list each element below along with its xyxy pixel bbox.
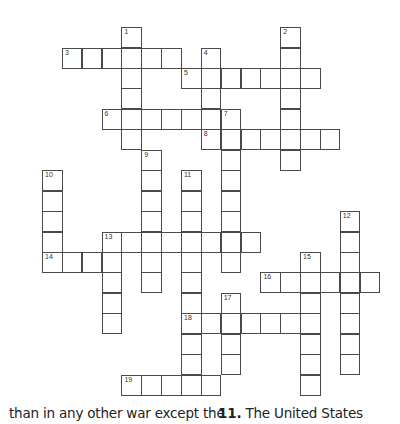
crossword-cell[interactable]: [300, 354, 321, 375]
crossword-cell[interactable]: [181, 191, 202, 212]
crossword-cell[interactable]: [340, 272, 361, 293]
crossword-cell[interactable]: [181, 334, 202, 355]
crossword-cell[interactable]: [121, 129, 142, 150]
crossword-cell[interactable]: [141, 232, 162, 253]
crossword-cell[interactable]: 12: [340, 211, 361, 232]
crossword-cell[interactable]: [141, 252, 162, 273]
crossword-cell[interactable]: [300, 313, 321, 334]
crossword-cell[interactable]: [221, 129, 242, 150]
crossword-cell[interactable]: 5: [181, 68, 202, 89]
crossword-cell[interactable]: [221, 191, 242, 212]
crossword-cell[interactable]: [141, 211, 162, 232]
crossword-cell[interactable]: [280, 109, 301, 130]
crossword-cell[interactable]: [42, 211, 63, 232]
crossword-cell[interactable]: [280, 272, 301, 293]
crossword-cell[interactable]: [201, 109, 222, 130]
crossword-cell[interactable]: [300, 375, 321, 396]
crossword-cell[interactable]: [241, 68, 262, 89]
crossword-cell[interactable]: 18: [181, 313, 202, 334]
crossword-cell[interactable]: 6: [102, 109, 123, 130]
crossword-cell[interactable]: [141, 375, 162, 396]
crossword-cell[interactable]: [201, 232, 222, 253]
crossword-cell[interactable]: [300, 129, 321, 150]
crossword-cell[interactable]: [260, 68, 281, 89]
crossword-cell[interactable]: [121, 48, 142, 69]
crossword-cell[interactable]: [360, 272, 381, 293]
crossword-cell[interactable]: [181, 252, 202, 273]
crossword-cell[interactable]: 8: [201, 129, 222, 150]
crossword-cell[interactable]: 14: [42, 252, 63, 273]
crossword-cell[interactable]: [300, 334, 321, 355]
crossword-cell[interactable]: [221, 252, 242, 273]
crossword-cell[interactable]: [141, 272, 162, 293]
crossword-cell[interactable]: [320, 129, 341, 150]
crossword-cell[interactable]: [221, 211, 242, 232]
crossword-cell[interactable]: [82, 252, 103, 273]
crossword-cell[interactable]: [260, 313, 281, 334]
crossword-cell[interactable]: 10: [42, 170, 63, 191]
crossword-cell[interactable]: 17: [221, 293, 242, 314]
crossword-cell[interactable]: [141, 109, 162, 130]
crossword-cell[interactable]: [260, 129, 281, 150]
crossword-cell[interactable]: 1: [121, 27, 142, 48]
crossword-cell[interactable]: [201, 88, 222, 109]
crossword-cell[interactable]: [221, 313, 242, 334]
crossword-cell[interactable]: [340, 293, 361, 314]
crossword-cell[interactable]: [42, 232, 63, 253]
crossword-cell[interactable]: [82, 48, 103, 69]
crossword-cell[interactable]: [280, 88, 301, 109]
crossword-cell[interactable]: [102, 252, 123, 273]
crossword-cell[interactable]: 9: [141, 150, 162, 171]
crossword-cell[interactable]: [221, 150, 242, 171]
crossword-cell[interactable]: 4: [201, 48, 222, 69]
crossword-cell[interactable]: 2: [280, 27, 301, 48]
crossword-cell[interactable]: [181, 293, 202, 314]
crossword-cell[interactable]: [121, 232, 142, 253]
crossword-cell[interactable]: [102, 293, 123, 314]
crossword-cell[interactable]: [141, 170, 162, 191]
crossword-cell[interactable]: [340, 354, 361, 375]
crossword-cell[interactable]: [181, 272, 202, 293]
crossword-cell[interactable]: [320, 272, 341, 293]
crossword-cell[interactable]: [181, 232, 202, 253]
crossword-cell[interactable]: [181, 375, 202, 396]
crossword-cell[interactable]: [141, 191, 162, 212]
crossword-cell[interactable]: [121, 109, 142, 130]
crossword-cell[interactable]: [280, 48, 301, 69]
crossword-cell[interactable]: [181, 211, 202, 232]
crossword-cell[interactable]: [181, 354, 202, 375]
crossword-cell[interactable]: [201, 68, 222, 89]
crossword-cell[interactable]: 7: [221, 109, 242, 130]
crossword-cell[interactable]: [121, 68, 142, 89]
crossword-cell[interactable]: [300, 68, 321, 89]
crossword-cell[interactable]: [62, 252, 83, 273]
crossword-cell[interactable]: [280, 313, 301, 334]
crossword-cell[interactable]: [241, 129, 262, 150]
crossword-cell[interactable]: [340, 252, 361, 273]
crossword-cell[interactable]: [340, 313, 361, 334]
crossword-cell[interactable]: [161, 48, 182, 69]
crossword-cell[interactable]: [280, 150, 301, 171]
crossword-cell[interactable]: [201, 375, 222, 396]
crossword-cell[interactable]: 15: [300, 252, 321, 273]
crossword-cell[interactable]: [221, 170, 242, 191]
crossword-cell[interactable]: [221, 68, 242, 89]
crossword-cell[interactable]: [280, 129, 301, 150]
crossword-cell[interactable]: [121, 88, 142, 109]
crossword-cell[interactable]: [161, 232, 182, 253]
crossword-cell[interactable]: 3: [62, 48, 83, 69]
crossword-cell[interactable]: 16: [260, 272, 281, 293]
crossword-cell[interactable]: [280, 68, 301, 89]
crossword-cell[interactable]: [42, 191, 63, 212]
crossword-cell[interactable]: [201, 313, 222, 334]
crossword-cell[interactable]: [221, 232, 242, 253]
crossword-cell[interactable]: [181, 109, 202, 130]
crossword-cell[interactable]: 13: [102, 232, 123, 253]
crossword-cell[interactable]: 11: [181, 170, 202, 191]
crossword-cell[interactable]: [102, 272, 123, 293]
crossword-cell[interactable]: [102, 48, 123, 69]
crossword-cell[interactable]: [241, 313, 262, 334]
crossword-cell[interactable]: [221, 354, 242, 375]
crossword-cell[interactable]: [161, 375, 182, 396]
crossword-cell[interactable]: 19: [121, 375, 142, 396]
